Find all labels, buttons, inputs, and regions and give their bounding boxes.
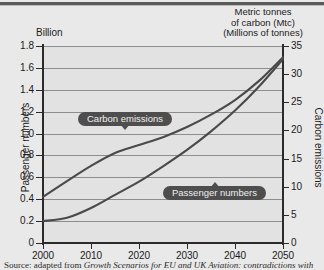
y2-axis-tick-label: 15 [291,154,317,164]
x-axis-tick [187,243,188,249]
x-axis-tick [43,243,44,249]
y2-axis-tick-label: 0 [291,238,317,248]
y2-axis-tick [282,215,289,216]
y2-axis-tick-label: 35 [291,41,317,51]
y-axis-tick-label: 0.2 [0,216,34,226]
callout-carbon-emissions: Carbon emissions [78,112,172,126]
x-axis-tick-label: 2000 [23,250,63,261]
y2-axis-tick [282,159,289,160]
y2-axis-tick-label: 10 [291,182,317,192]
y2-axis-tick [282,130,289,131]
y2-axis-tick [282,46,289,47]
x-axis-tick [283,243,284,249]
source-note: Source: adapted from Growth Scenarios fo… [4,260,322,270]
y-axis-tick-label: 0.6 [0,172,34,182]
x-axis-tick [139,243,140,249]
series-curves [0,0,324,270]
x-axis-tick-label: 2020 [119,250,159,261]
y-axis-tick-label: 0 [0,238,34,248]
y-axis-tick [36,155,43,156]
y2-axis-tick [282,102,289,103]
x-axis-tick-label: 2040 [215,250,255,261]
y-axis-tick [36,177,43,178]
y-axis-tick-label: 1.2 [0,107,34,117]
callout-passenger-numbers: Passenger numbers [163,186,266,200]
x-axis-tick-label: 2030 [167,250,207,261]
y-axis-tick [36,68,43,69]
y2-axis-tick-label: 5 [291,210,317,220]
x-axis-tick [235,243,236,249]
y-axis-tick [36,112,43,113]
callout-tail-icon [120,124,130,130]
source-title: Growth Scenarios for EU and UK Aviation:… [84,260,314,270]
y-axis-tick-label: 0.4 [0,194,34,204]
y-axis-tick [36,134,43,135]
y-axis-tick-label: 1.4 [0,85,34,95]
source-connector: adapted from [32,260,84,270]
y-axis-tick-label: 1.8 [0,41,34,51]
y2-axis-tick-label: 25 [291,97,317,107]
y-axis-tick-label: 0.8 [0,150,34,160]
y-axis-tick-label: 1.6 [0,63,34,73]
y-axis-tick-label: 1.0 [0,129,34,139]
callout-carbon-label: Carbon emissions [87,113,163,124]
x-axis-tick [91,243,92,249]
y-axis-tick [36,90,43,91]
source-lead: Source: [4,260,32,270]
series-line-carbon-emissions [43,57,283,197]
y2-axis-tick [282,187,289,188]
callout-tail-icon [210,182,220,188]
y2-axis-tick-label: 20 [291,125,317,135]
y2-axis-tick [282,74,289,75]
y-axis-tick [36,46,43,47]
x-axis-tick-label: 2010 [71,250,111,261]
x-axis-tick-label: 2050 [263,250,303,261]
y2-axis-tick-label: 30 [291,69,317,79]
y-axis-tick [36,243,43,244]
y-axis-tick [36,221,43,222]
figure-chart-aviation-growth: Metric tonnes of carbon (Mtc) (Millions … [0,0,324,270]
callout-passengers-label: Passenger numbers [172,187,257,198]
y-axis-tick [36,199,43,200]
